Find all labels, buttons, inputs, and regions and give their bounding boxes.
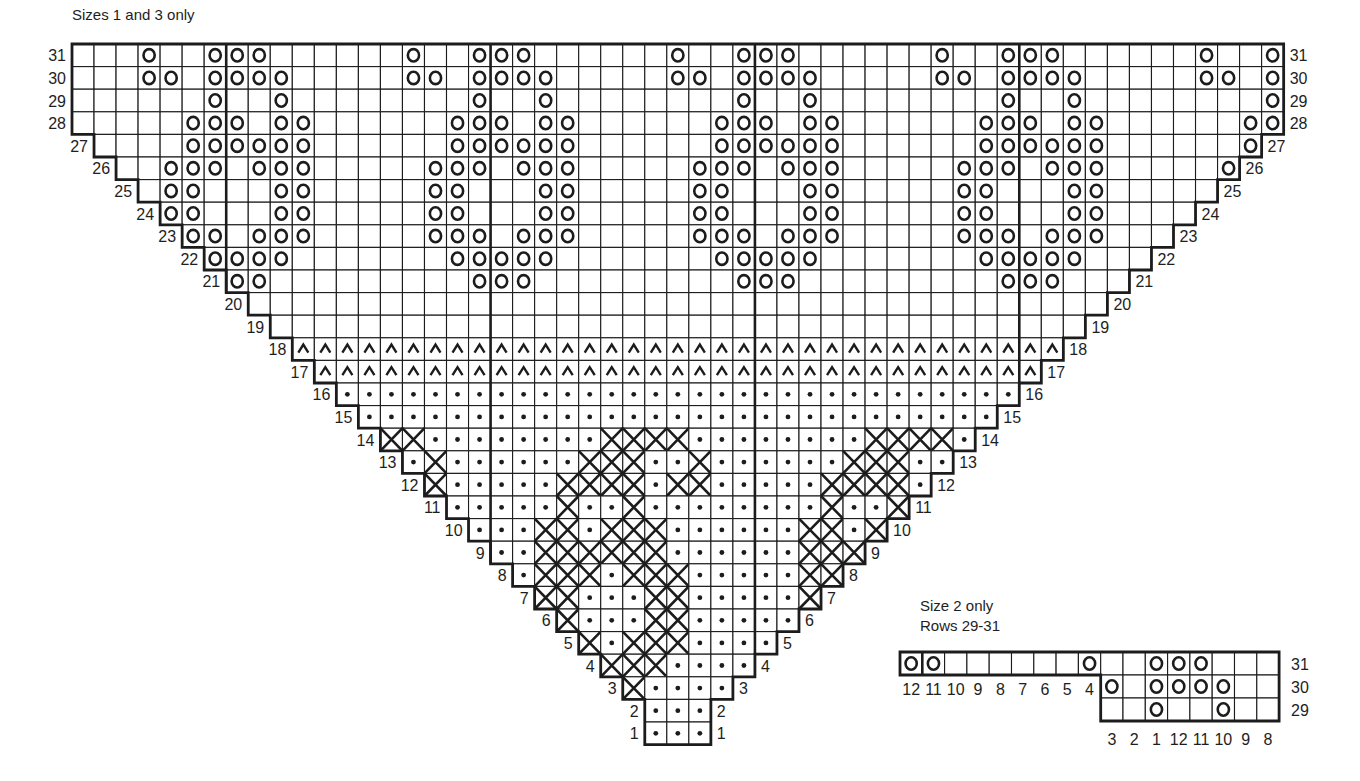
chart-cell <box>931 134 953 157</box>
chart-cell <box>997 180 1019 203</box>
chart-cell <box>1063 89 1085 112</box>
dot-symbol <box>653 686 658 691</box>
dot-symbol <box>653 415 658 420</box>
chart-cell <box>623 180 645 203</box>
dot-symbol <box>918 482 923 487</box>
dot-symbol <box>962 392 967 397</box>
chart-cell <box>843 293 865 316</box>
chart-cell <box>799 180 821 203</box>
chart-cell <box>579 157 601 180</box>
chart-cell <box>667 112 689 135</box>
chart-cell <box>777 225 799 248</box>
chart-cell <box>226 180 248 203</box>
dot-symbol <box>499 550 504 555</box>
dot-symbol <box>719 550 724 555</box>
dot-symbol <box>764 460 769 465</box>
chart-cell <box>667 44 689 67</box>
chart-cell <box>799 360 821 383</box>
chart-cell <box>248 89 270 112</box>
dot-symbol <box>653 482 658 487</box>
chart-cell <box>447 180 469 203</box>
chart-cell <box>1041 89 1063 112</box>
chart-cell <box>1174 89 1196 112</box>
chart-cell <box>601 157 623 180</box>
chart-cell <box>248 225 270 248</box>
row-label-right: 31 <box>1290 47 1308 64</box>
chart-cell <box>1129 157 1151 180</box>
chart-cell <box>997 157 1019 180</box>
chart-cell <box>336 134 358 157</box>
row-label-left: 19 <box>246 319 264 336</box>
chart-cell <box>226 157 248 180</box>
chart-cell <box>402 247 424 270</box>
chart-cell <box>579 247 601 270</box>
chart-cell <box>469 360 491 383</box>
chart-cell <box>777 44 799 67</box>
dot-symbol <box>587 505 592 510</box>
chart-cell <box>821 112 843 135</box>
chart-cell <box>1019 134 1041 157</box>
dot-symbol <box>345 392 350 397</box>
dot-symbol <box>521 392 526 397</box>
chart-cell <box>557 270 579 293</box>
chart-cell <box>469 180 491 203</box>
inset-stitch-number: 9 <box>1241 731 1250 748</box>
dot-symbol <box>719 415 724 420</box>
chart-cell <box>887 89 909 112</box>
chart-cell <box>1174 44 1196 67</box>
chart-cell <box>424 44 446 67</box>
chart-cell <box>887 225 909 248</box>
chart-cell <box>733 247 755 270</box>
chart-cell <box>1063 247 1085 270</box>
chart-cell <box>997 134 1019 157</box>
chart-cell <box>579 44 601 67</box>
chart-cell <box>1107 157 1129 180</box>
chart-cell <box>182 180 204 203</box>
chart-row-17 <box>314 360 1041 383</box>
chart-cell <box>424 270 446 293</box>
chart-cell <box>557 293 579 316</box>
chart-cell <box>1063 112 1085 135</box>
chart-cell <box>821 157 843 180</box>
chart-cell <box>513 315 535 338</box>
chart-cell <box>755 134 777 157</box>
dot-symbol <box>808 392 813 397</box>
dot-symbol <box>719 595 724 600</box>
chart-cell <box>182 202 204 225</box>
chart-cell <box>535 44 557 67</box>
chart-cell <box>513 360 535 383</box>
chart-cell <box>380 67 402 90</box>
chart-cell <box>623 134 645 157</box>
row-label-right: 27 <box>1268 138 1286 155</box>
dot-symbol <box>367 392 372 397</box>
chart-cell <box>138 44 160 67</box>
dot-symbol <box>477 460 482 465</box>
chart-cell <box>601 180 623 203</box>
chart-cell <box>865 315 887 338</box>
chart-cell <box>182 134 204 157</box>
chart-cell <box>1063 225 1085 248</box>
chart-row-10 <box>469 519 888 542</box>
chart-row-30 <box>1101 675 1279 698</box>
chart-cell <box>1085 225 1107 248</box>
chart-cell <box>1019 44 1041 67</box>
chart-cell <box>535 360 557 383</box>
dot-symbol <box>786 437 791 442</box>
dot-symbol <box>521 460 526 465</box>
chart-cell <box>865 225 887 248</box>
dot-symbol <box>653 392 658 397</box>
dot-symbol <box>808 415 813 420</box>
inset-row-label: 30 <box>1291 679 1309 696</box>
chart-cell <box>424 247 446 270</box>
dot-symbol <box>631 392 636 397</box>
chart-cell <box>469 202 491 225</box>
dot-symbol <box>631 618 636 623</box>
chart-row-12 <box>424 473 931 496</box>
chart-cell <box>358 360 380 383</box>
chart-cell <box>887 293 909 316</box>
chart-cell <box>1196 134 1218 157</box>
chart-cell <box>248 247 270 270</box>
chart-cell <box>72 112 94 135</box>
dot-symbol <box>874 392 879 397</box>
chart-cell <box>777 202 799 225</box>
